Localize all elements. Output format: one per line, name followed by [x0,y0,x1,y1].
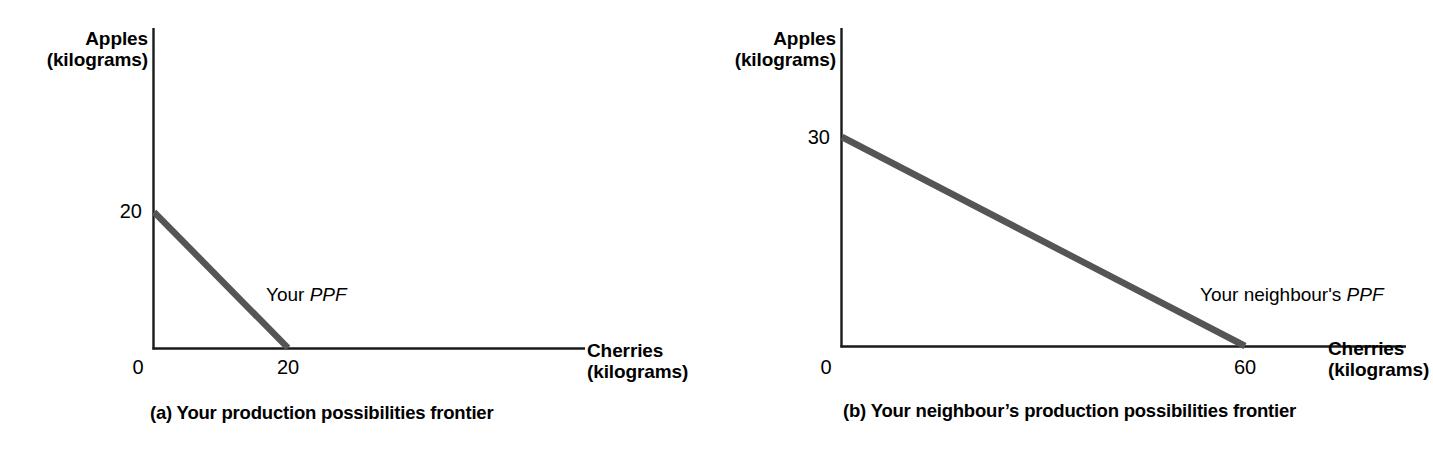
panel-b-x-tick-60: 60 [1225,357,1265,377]
panel-a-y-axis-title-main: Apples [0,28,148,49]
panel-a-series-label: Your PPF [266,285,347,305]
panel-b-x-tick-0: 0 [806,357,846,377]
panel-b-x-axis-title: Cherries (kilograms) [1328,338,1433,380]
panel-b-y-axis-title-units: (kilograms) [710,49,836,70]
panel-b-caption: (b) Your neighbour’s production possibil… [843,401,1296,421]
panel-b-x-axis-title-main: Cherries [1328,338,1433,359]
panel-a-x-tick-0: 0 [118,357,158,377]
panel-a-caption: (a) Your production possibilities fronti… [150,403,493,423]
panel-a-your-ppf: Apples (kilograms) 20 0 20 Cherries (kil… [0,0,710,461]
panel-a-y-axis-title: Apples (kilograms) [0,28,148,70]
panel-b-y-axis-title: Apples (kilograms) [710,28,836,70]
panel-b-ppf-line [842,137,1245,346]
panel-b-y-tick-30: 30 [748,127,830,147]
panel-b-y-axis-title-main: Apples [710,28,836,49]
panel-a-series-label-plain: Your [266,284,310,305]
panel-a-ppf-line [154,212,288,348]
panel-a-y-axis-title-units: (kilograms) [0,49,148,70]
panel-b-series-label-plain: Your neighbour's [1200,284,1347,305]
panel-b-neighbour-ppf: Apples (kilograms) 30 0 60 Cherries (kil… [710,0,1420,461]
panel-a-series-label-italic: PPF [310,284,347,305]
panel-b-x-axis-title-units: (kilograms) [1328,359,1433,380]
panel-b-series-label-italic: PPF [1347,284,1384,305]
panel-a-x-tick-20: 20 [268,357,308,377]
panel-a-y-tick-20: 20 [60,201,142,221]
panel-b-series-label: Your neighbour's PPF [1200,285,1384,305]
